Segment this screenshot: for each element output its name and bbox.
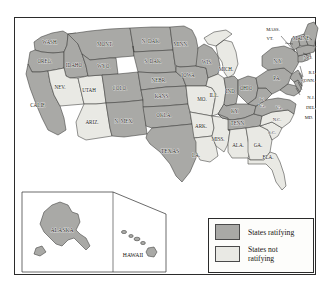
label-fla: FLA.	[263, 154, 274, 160]
label-ariz: ARIZ.	[85, 119, 98, 125]
label-ark: ARK.	[195, 123, 207, 129]
label-nc: N.C.	[273, 117, 282, 122]
label-mont: MONT.	[97, 41, 113, 47]
label-nj: N.J.	[307, 95, 314, 100]
label-ri: R.I.	[309, 70, 316, 75]
legend-label-ratifying: States ratifying	[248, 228, 294, 237]
map-legend: States ratifying States not ratifying	[208, 218, 314, 273]
label-wis: WIS.	[202, 59, 213, 65]
label-ga: GA.	[254, 142, 263, 148]
label-calif: CALIF.	[30, 102, 46, 108]
label-del: DEL.	[306, 105, 316, 110]
label-nebr: NEBR.	[152, 77, 167, 83]
inset-frame	[22, 192, 166, 272]
legend-swatch-ratifying	[215, 224, 240, 240]
label-iowa: IOWA	[181, 72, 195, 78]
label-la: LA.	[192, 152, 200, 158]
label-kans: KANS.	[154, 93, 169, 99]
label-utah: UTAH	[82, 87, 96, 93]
label-va: VA.	[275, 105, 282, 110]
label-texas: TEXAS	[161, 148, 179, 154]
label-wyo: WYO.	[97, 63, 110, 69]
legend-item-ratifying: States ratifying	[215, 224, 307, 240]
label-sc: S.C.	[268, 130, 276, 135]
label-colo: COLO.	[112, 85, 127, 91]
label-nh: N.H.	[304, 55, 313, 60]
legend-swatch-not-ratifying	[215, 246, 240, 262]
label-nmex: N. MEX.	[115, 118, 134, 124]
label-alaska: ALASKA	[50, 227, 74, 233]
label-mo: MO.	[197, 96, 206, 102]
label-hawaii: HAWAII	[123, 252, 143, 258]
label-minn: MINN.	[174, 41, 189, 47]
label-ndak: N. DAK.	[142, 38, 161, 44]
label-idaho: IDAHO	[66, 62, 83, 68]
label-pa: PA.	[273, 75, 280, 81]
map-figure: .st { stroke: #3a3a38; stroke-width: 0.5…	[0, 0, 329, 292]
label-tenn: TENN.	[231, 120, 246, 126]
label-conn: CONN.	[301, 78, 315, 83]
label-md: MD.	[305, 115, 314, 120]
label-wva-line2: VA.	[258, 103, 265, 108]
label-maine: MAINE	[293, 35, 310, 41]
label-sdak: S. DAK.	[144, 58, 162, 64]
label-ala: ALA.	[232, 142, 244, 148]
label-ind: IND.	[226, 88, 236, 94]
label-nev: NEV.	[54, 84, 65, 90]
label-mass: MASS.	[266, 27, 280, 32]
label-wash: WASH.	[42, 39, 58, 45]
legend-label-not-ratifying: States not ratifying	[248, 245, 278, 263]
label-miss: MISS.	[211, 136, 224, 142]
label-ky: KY.	[231, 108, 239, 114]
label-ohio: OHIO	[240, 85, 253, 91]
label-ill: ILL.	[209, 92, 218, 98]
label-okla: OKLA.	[156, 112, 171, 118]
label-vt: VT.	[267, 36, 274, 41]
label-wva-line1: W.	[259, 97, 264, 102]
label-oreg: OREG.	[37, 58, 52, 64]
label-ny: N.Y.	[273, 58, 282, 64]
label-mich: MICH.	[219, 66, 234, 72]
legend-item-not-ratifying: States not ratifying	[215, 245, 307, 263]
